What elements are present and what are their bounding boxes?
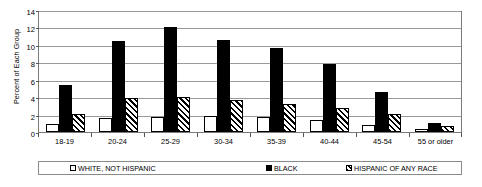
legend-swatch-icon bbox=[266, 165, 272, 171]
legend-label: BLACK bbox=[274, 164, 298, 173]
bar[interactable] bbox=[72, 114, 85, 132]
bar[interactable] bbox=[283, 104, 296, 132]
bar[interactable] bbox=[112, 41, 125, 133]
bar[interactable] bbox=[257, 117, 270, 132]
bar[interactable] bbox=[177, 97, 190, 132]
legend-label: WHITE, NOT HISPANIC bbox=[78, 164, 156, 173]
bar[interactable] bbox=[323, 64, 336, 132]
bar-group bbox=[250, 12, 303, 132]
bar[interactable] bbox=[125, 98, 138, 132]
bar[interactable] bbox=[99, 118, 112, 132]
bar[interactable] bbox=[415, 129, 428, 132]
x-axis-tick-label: 40-44 bbox=[303, 137, 356, 146]
y-axis-tick-label: 12 bbox=[27, 25, 35, 34]
bar[interactable] bbox=[336, 108, 349, 132]
bar[interactable] bbox=[59, 85, 72, 132]
bar[interactable] bbox=[375, 92, 388, 132]
bar[interactable] bbox=[388, 114, 401, 132]
x-axis-tick-label: 25-29 bbox=[144, 137, 197, 146]
bar-group bbox=[356, 12, 409, 132]
x-axis-tick-label: 45-54 bbox=[356, 137, 409, 146]
bar-group bbox=[92, 12, 145, 132]
x-axis-tick-label: 20-24 bbox=[91, 137, 144, 146]
x-axis-tick-label: 30-34 bbox=[197, 137, 250, 146]
plot-area: 02468101214 bbox=[38, 11, 462, 133]
bar[interactable] bbox=[270, 48, 283, 132]
bar[interactable] bbox=[362, 125, 375, 132]
bar-groups bbox=[39, 12, 461, 132]
bar-group bbox=[303, 12, 356, 132]
bar[interactable] bbox=[164, 27, 177, 132]
chart-legend: WHITE, NOT HISPANICBLACKHISPANIC OF ANY … bbox=[38, 161, 462, 175]
bar-group bbox=[408, 12, 461, 132]
x-axis-tick-label: 18-19 bbox=[38, 137, 91, 146]
bar[interactable] bbox=[428, 123, 441, 132]
x-axis-tick-label: 55 or older bbox=[409, 137, 462, 146]
y-axis-title: Percent of Each Group bbox=[12, 7, 21, 127]
legend-item[interactable]: BLACK bbox=[266, 164, 298, 173]
y-axis-tick-label: 2 bbox=[31, 112, 35, 121]
bar-chart: Percent of Each Group 02468101214 18-192… bbox=[0, 0, 482, 187]
legend-item[interactable]: HISPANIC OF ANY RACE bbox=[346, 164, 438, 173]
bar[interactable] bbox=[310, 120, 323, 132]
legend-swatch-icon bbox=[70, 165, 76, 171]
y-axis-tick-label: 0 bbox=[31, 130, 35, 139]
legend-label: HISPANIC OF ANY RACE bbox=[354, 164, 438, 173]
y-axis-tick-label: 4 bbox=[31, 95, 35, 104]
y-axis-tick-label: 8 bbox=[31, 60, 35, 69]
legend-swatch-icon bbox=[346, 165, 352, 171]
y-axis-tick-label: 10 bbox=[27, 42, 35, 51]
y-axis-tick-label: 6 bbox=[31, 77, 35, 86]
bar-group bbox=[145, 12, 198, 132]
x-axis-tick-label: 35-39 bbox=[250, 137, 303, 146]
x-axis-labels: 18-1920-2425-2930-3435-3940-4445-5455 or… bbox=[38, 137, 462, 146]
bar[interactable] bbox=[204, 116, 217, 132]
bar[interactable] bbox=[46, 124, 59, 132]
bar[interactable] bbox=[230, 100, 243, 132]
bar[interactable] bbox=[217, 40, 230, 132]
bar[interactable] bbox=[151, 117, 164, 132]
y-axis-tick-label: 14 bbox=[27, 8, 35, 17]
bar-group bbox=[197, 12, 250, 132]
bar[interactable] bbox=[441, 126, 454, 132]
bar-group bbox=[39, 12, 92, 132]
legend-item[interactable]: WHITE, NOT HISPANIC bbox=[70, 164, 156, 173]
